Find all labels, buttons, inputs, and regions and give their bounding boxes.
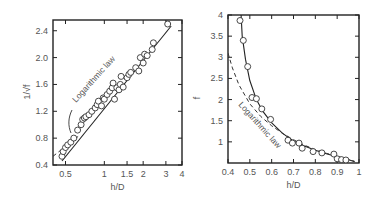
x-tick-label: 0.5 xyxy=(59,169,72,179)
data-point xyxy=(259,106,265,112)
x-tick-label: 1 xyxy=(102,169,107,179)
data-point xyxy=(75,127,81,133)
data-point xyxy=(140,60,146,66)
y-axis-label: f xyxy=(192,96,202,99)
data-point xyxy=(237,18,243,24)
x-tick-label: 1 xyxy=(356,167,361,177)
data-point xyxy=(289,140,295,146)
y-tick-label: 4 xyxy=(218,10,223,20)
x-tick-label: 4 xyxy=(179,169,184,179)
data-point xyxy=(310,149,316,155)
data-point xyxy=(319,150,325,156)
x-tick-label: 0.4 xyxy=(222,167,235,177)
data-point xyxy=(120,84,126,90)
data-point xyxy=(245,64,251,70)
x-tick-label: 0.7 xyxy=(287,167,300,177)
data-point xyxy=(112,96,118,102)
y-tick-label: 2 xyxy=(218,95,223,105)
annotation-logarithmic-law: Logarithmic law xyxy=(70,53,118,104)
y-tick-label: 1.6 xyxy=(35,79,48,89)
x-tick-label: 2 xyxy=(141,169,146,179)
y-tick-label: 2.0 xyxy=(35,53,48,63)
y-tick-label: 0.4 xyxy=(35,160,48,170)
x-tick-label: 0.5 xyxy=(244,167,257,177)
x-tick-label: 0.8 xyxy=(309,167,322,177)
data-point xyxy=(268,116,274,122)
x-tick-label: 0.9 xyxy=(331,167,344,177)
data-point xyxy=(118,73,124,79)
fit-curve xyxy=(241,15,355,162)
data-point xyxy=(240,37,246,43)
data-point xyxy=(150,40,156,46)
y-tick-label: 2.5 xyxy=(210,73,223,83)
x-axis-label: h/D xyxy=(286,180,301,190)
y-tick-label: 2.4 xyxy=(35,26,48,36)
left-plot-1-over-sqrt-f: 0.511.52340.40.81.21.62.02.4h/D1/√fLogar… xyxy=(22,20,185,192)
x-tick-label: 0.6 xyxy=(265,167,278,177)
data-point xyxy=(136,68,142,74)
y-tick-label: 1.2 xyxy=(35,106,48,116)
data-point xyxy=(165,21,171,27)
y-tick-label: 0.8 xyxy=(35,133,48,143)
data-point xyxy=(343,157,349,163)
annotation-pointer xyxy=(69,110,72,133)
data-point xyxy=(299,145,305,151)
data-point xyxy=(99,103,105,109)
x-tick-label: 3 xyxy=(163,169,168,179)
y-axis-label: 1/√f xyxy=(22,84,32,99)
data-point xyxy=(149,47,155,53)
x-axis-label: h/D xyxy=(110,182,125,192)
figure: 0.511.52340.40.81.21.62.02.4h/D1/√fLogar… xyxy=(0,0,376,203)
right-plot-f: 0.40.50.60.70.80.9111.522.533.54h/DfLoga… xyxy=(192,10,362,190)
x-tick-label: 1.5 xyxy=(121,169,134,179)
y-tick-label: 3 xyxy=(218,52,223,62)
y-tick-label: 1.5 xyxy=(210,116,223,126)
data-point xyxy=(71,135,77,141)
data-point xyxy=(128,69,134,75)
y-tick-label: 3.5 xyxy=(210,31,223,41)
data-point xyxy=(144,53,150,59)
data-point xyxy=(253,96,259,102)
y-tick-label: 1 xyxy=(218,137,223,147)
